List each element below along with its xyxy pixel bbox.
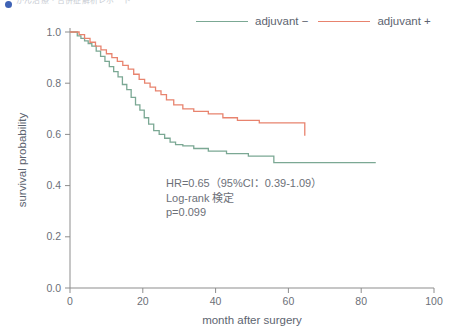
y-tick-label: 0.2 (46, 230, 61, 242)
x-axis: 020406080100 month after surgery (67, 288, 443, 326)
y-tick-label: 0.6 (46, 128, 61, 140)
x-tick-label: 80 (355, 295, 367, 307)
annotation-test-name: Log-rank 検定 (166, 191, 322, 206)
plot-area: 0.00.20.40.60.81.0 survival probability … (0, 0, 456, 329)
y-axis-title: survival probability (16, 112, 28, 207)
x-axis-ticks: 020406080100 (67, 288, 443, 307)
x-tick-label: 0 (67, 295, 73, 307)
y-axis-ticks: 0.00.20.40.60.81.0 (46, 26, 70, 294)
y-tick-label: 0.0 (46, 282, 61, 294)
survival-curves (70, 32, 376, 163)
y-tick-label: 0.4 (46, 179, 61, 191)
x-tick-label: 20 (137, 295, 149, 307)
annotation-hazard-ratio: HR=0.65（95%CI：0.39-1.09） (166, 176, 322, 191)
x-tick-label: 40 (210, 295, 222, 307)
y-tick-label: 1.0 (46, 26, 61, 38)
survival-curve-adjuvant-minus (70, 32, 376, 163)
x-tick-label: 60 (283, 295, 295, 307)
y-tick-label: 0.8 (46, 77, 61, 89)
kaplan-meier-figure: がん治療・合併症解析レポート adjuvant − adjuvant + 0.0… (0, 0, 456, 329)
survival-curve-adjuvant-plus (70, 32, 305, 136)
y-axis: 0.00.20.40.60.81.0 survival probability (16, 26, 70, 294)
annotation-p-value: p=0.099 (166, 205, 322, 220)
x-tick-label: 100 (425, 295, 443, 307)
statistics-annotation: HR=0.65（95%CI：0.39-1.09） Log-rank 検定 p=0… (166, 176, 322, 220)
x-axis-title: month after surgery (202, 314, 302, 326)
